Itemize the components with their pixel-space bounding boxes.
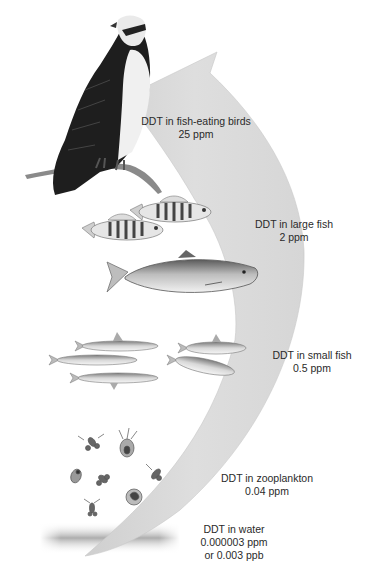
label-large-fish-title: DDT in large fish [246,218,342,231]
label-water: DDT in water 0.000003 ppm or 0.003 ppb [186,523,282,562]
label-water-ppm: 0.000003 ppm [186,536,282,549]
label-small-fish-title: DDT in small fish [264,349,360,362]
label-zooplankton-value: 0.04 ppm [212,485,322,498]
label-small-fish-value: 0.5 ppm [264,362,360,375]
label-water-title: DDT in water [186,523,282,536]
perch-fish-image [82,196,211,240]
label-fish-eating-birds-value: 25 ppm [136,128,256,141]
label-water-ppb: or 0.003 ppb [186,549,282,562]
label-zooplankton-title: DDT in zooplankton [212,472,322,485]
label-small-fish: DDT in small fish 0.5 ppm [264,349,360,375]
label-large-fish-value: 2 ppm [246,231,342,244]
label-fish-eating-birds: DDT in fish-eating birds 25 ppm [136,115,256,141]
label-large-fish: DDT in large fish 2 ppm [246,218,342,244]
label-fish-eating-birds-title: DDT in fish-eating birds [136,115,256,128]
small-fish-school-image [49,332,246,390]
osprey-image [25,16,162,196]
label-zooplankton: DDT in zooplankton 0.04 ppm [212,472,322,498]
